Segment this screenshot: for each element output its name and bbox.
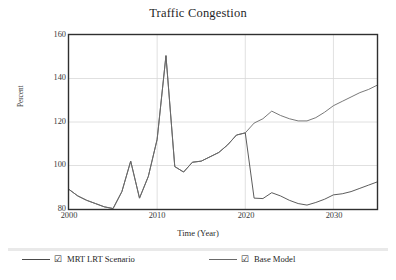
legend-separator: [8, 248, 388, 251]
legend-line-swatch-base: [209, 259, 237, 260]
legend-checkbox-mrt[interactable]: ☑: [54, 255, 62, 264]
legend-label-mrt: MRT LRT Scenario: [67, 254, 135, 264]
legend-label-base: Base Model: [254, 254, 295, 264]
plot-area: [0, 0, 396, 280]
legend-line-swatch-mrt: [22, 259, 50, 260]
x-axis-label: Time (Year): [0, 228, 396, 238]
legend-item-mrt-lrt-scenario[interactable]: ☑ MRT LRT Scenario: [22, 254, 135, 264]
traffic-congestion-chart: Traffic Congestion Percent 160 140 120 1…: [0, 0, 396, 280]
legend-item-base-model[interactable]: ☑ Base Model: [209, 254, 295, 264]
legend-checkbox-base[interactable]: ☑: [241, 255, 249, 264]
gridlines: [69, 35, 378, 209]
chart-legend: ☑ MRT LRT Scenario ☑ Base Model: [0, 254, 396, 272]
